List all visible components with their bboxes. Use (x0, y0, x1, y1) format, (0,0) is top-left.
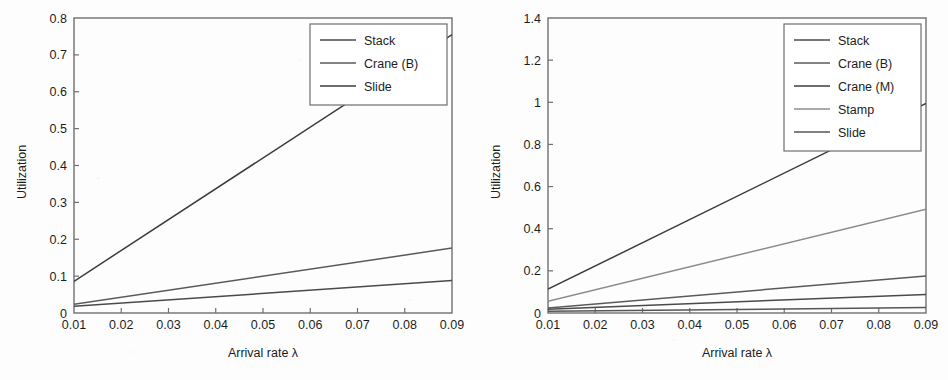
left-x-tick-label: 0.05 (251, 318, 275, 332)
chart-panel-left: 0.010.020.030.040.050.060.070.080.0900.1… (0, 0, 474, 380)
right-y-tick-label: 0.6 (524, 180, 541, 194)
figure-two-panel-line-charts: 0.010.020.030.040.050.060.070.080.0900.1… (0, 0, 948, 380)
right-x-axis-title: Arrival rate λ (702, 346, 773, 360)
right-y-tick-label: 0 (534, 307, 541, 321)
left-x-tick-label: 0.08 (393, 318, 417, 332)
left-x-tick-label: 0.03 (156, 318, 180, 332)
left-chart-svg: 0.010.020.030.040.050.060.070.080.0900.1… (0, 0, 474, 380)
left-y-tick-label: 0.7 (50, 48, 67, 62)
right-x-tick-label: 0.06 (772, 318, 796, 332)
right-legend-label-stack[interactable]: Stack (838, 34, 870, 48)
right-y-tick-label: 0.4 (524, 222, 541, 236)
right-x-tick-label: 0.07 (819, 318, 843, 332)
right-series-crane-b (548, 276, 926, 308)
right-x-tick-label: 0.02 (583, 318, 607, 332)
left-series-stack (74, 281, 452, 307)
left-x-axis-title: Arrival rate λ (228, 346, 299, 360)
left-y-tick-label: 0.5 (50, 122, 67, 136)
left-y-tick-label: 0.1 (50, 270, 67, 284)
right-y-axis-title: Utilization (489, 145, 503, 199)
right-legend-label-crane-m[interactable]: Crane (M) (838, 80, 894, 94)
left-x-tick-label: 0.09 (440, 318, 464, 332)
left-x-tick-label: 0.04 (204, 318, 228, 332)
left-legend-label-crane-b[interactable]: Crane (B) (364, 57, 418, 71)
right-chart-svg: 0.010.020.030.040.050.060.070.080.0900.2… (474, 0, 948, 380)
right-x-tick-label: 0.05 (725, 318, 749, 332)
left-y-tick-label: 0.8 (50, 12, 67, 26)
right-legend-label-crane-b[interactable]: Crane (B) (838, 57, 892, 71)
right-y-tick-label: 0.2 (524, 264, 541, 278)
left-y-tick-label: 0 (60, 307, 67, 321)
right-y-tick-label: 1.4 (524, 12, 541, 26)
left-legend-label-slide[interactable]: Slide (364, 80, 392, 94)
right-x-tick-label: 0.03 (630, 318, 654, 332)
right-legend-label-stamp[interactable]: Stamp (838, 103, 874, 117)
left-x-tick-label: 0.06 (298, 318, 322, 332)
right-legend-label-slide[interactable]: Slide (838, 126, 866, 140)
left-x-tick-label: 0.02 (109, 318, 133, 332)
left-y-tick-label: 0.2 (50, 233, 67, 247)
left-y-axis-title: Utilization (15, 145, 29, 199)
right-y-tick-label: 0.8 (524, 138, 541, 152)
left-series-crane-b (74, 248, 452, 304)
right-y-tick-label: 1.2 (524, 54, 541, 68)
left-y-tick-label: 0.6 (50, 85, 67, 99)
right-series-stamp (548, 209, 926, 301)
right-x-tick-label: 0.04 (678, 318, 702, 332)
left-y-tick-label: 0.3 (50, 196, 67, 210)
right-x-tick-label: 0.09 (914, 318, 938, 332)
right-x-tick-label: 0.08 (867, 318, 891, 332)
left-x-tick-label: 0.07 (345, 318, 369, 332)
right-y-tick-label: 1 (534, 96, 541, 110)
left-legend-label-stack[interactable]: Stack (364, 34, 396, 48)
right-legend[interactable]: StackCrane (B)Crane (M)StampSlide (784, 24, 921, 151)
left-legend[interactable]: StackCrane (B)Slide (310, 24, 447, 105)
right-series-stack (548, 294, 926, 309)
left-y-tick-label: 0.4 (50, 159, 67, 173)
chart-panel-right: 0.010.020.030.040.050.060.070.080.0900.2… (474, 0, 948, 380)
